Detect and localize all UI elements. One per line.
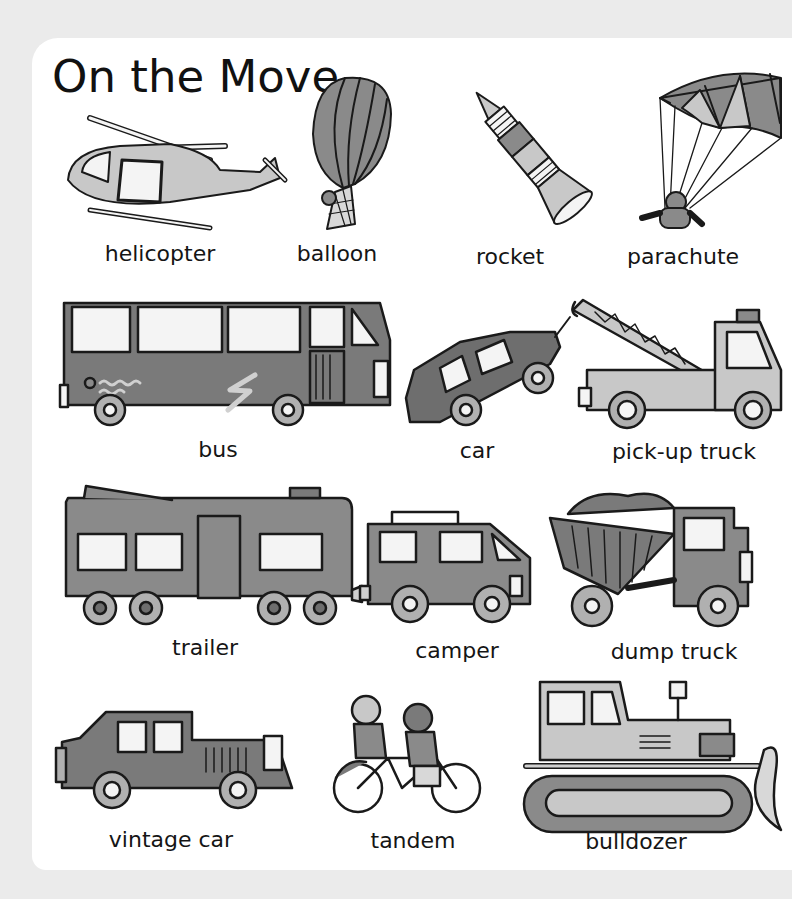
- vehicle-label: rocket: [476, 246, 544, 268]
- hot-air-balloon-icon: [305, 74, 395, 234]
- rocket-icon: [448, 74, 608, 234]
- vintage-car-icon: [56, 708, 301, 808]
- parachute-icon: [630, 68, 781, 238]
- tandem-bicycle-icon: [326, 688, 488, 818]
- vehicle-label: car: [460, 440, 495, 462]
- vehicle-label: parachute: [627, 246, 739, 268]
- vehicle-label: helicopter: [105, 243, 215, 265]
- bulldozer-icon: [520, 680, 781, 820]
- vehicle-label: dump truck: [611, 641, 738, 663]
- bus-icon: [60, 295, 395, 430]
- vehicle-label: pick-up truck: [612, 441, 756, 463]
- vehicle-label: vintage car: [109, 829, 233, 851]
- page-title: On the Move: [52, 54, 339, 99]
- vehicle-label: tandem: [371, 830, 456, 852]
- vehicle-label: bulldozer: [585, 831, 687, 853]
- tow-truck-icon: [565, 292, 781, 432]
- helicopter-icon: [60, 110, 290, 240]
- vehicle-label: balloon: [297, 243, 378, 265]
- dump-truck-icon: [548, 488, 781, 628]
- vehicle-label: bus: [198, 439, 237, 461]
- vehicle-label: trailer: [172, 637, 238, 659]
- car-icon: [400, 312, 570, 432]
- camper-van-icon: [360, 504, 550, 622]
- trailer-icon: [62, 478, 362, 618]
- vehicle-label: camper: [415, 640, 499, 662]
